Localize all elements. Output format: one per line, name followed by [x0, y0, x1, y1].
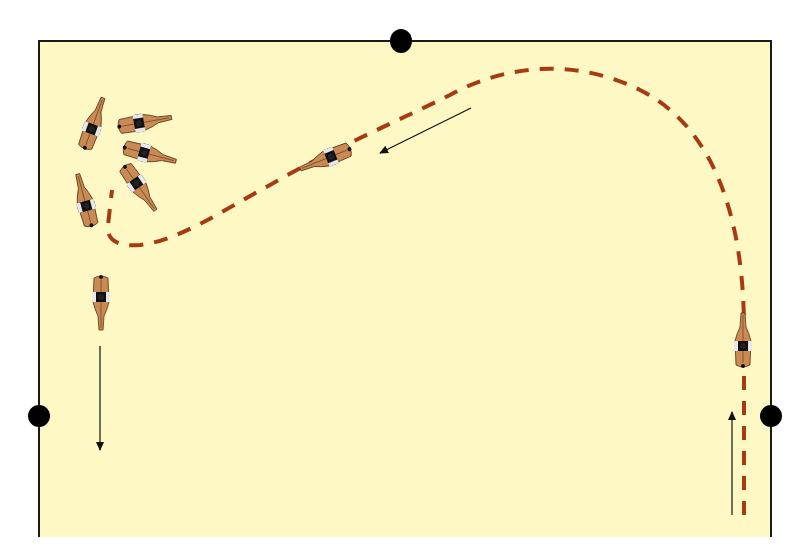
- marker-left: [28, 405, 50, 427]
- arena-canvas: [0, 0, 812, 559]
- marker-right: [760, 405, 782, 427]
- marker-top-center: [390, 29, 412, 53]
- arena-diagram: [0, 0, 812, 559]
